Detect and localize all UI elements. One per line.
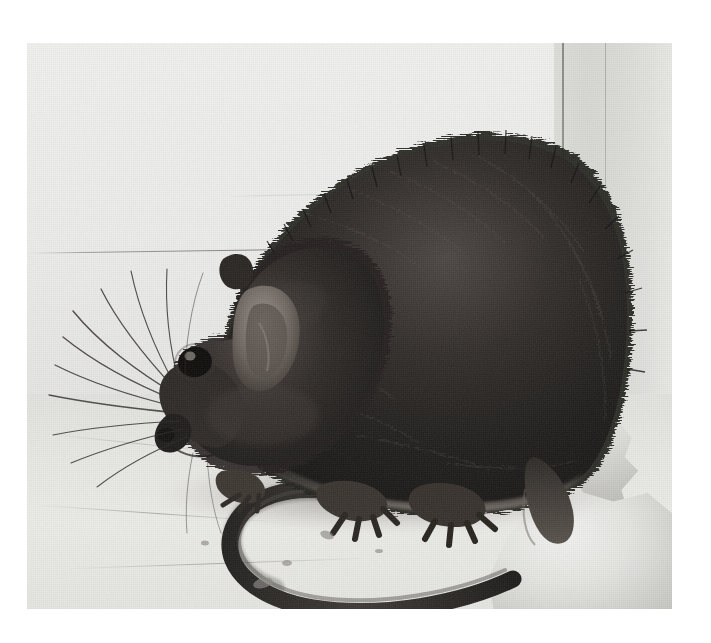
film-grain-overlay	[27, 43, 672, 609]
image-canvas	[0, 0, 711, 643]
photograph-plate	[27, 43, 672, 609]
